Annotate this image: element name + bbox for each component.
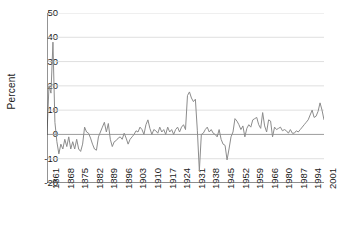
- chart-container: Percent 50403020100-10-20 18611868187518…: [0, 0, 339, 230]
- x-tick-label: 2001: [328, 168, 338, 189]
- line-chart-svg: [47, 13, 324, 183]
- plot-area: [47, 13, 324, 183]
- y-axis-title: Percent: [6, 62, 17, 122]
- gridlines: [47, 13, 324, 183]
